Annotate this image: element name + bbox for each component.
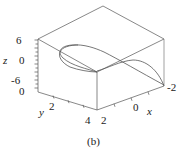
y-tick: [53, 96, 54, 99]
box-wireframe: [38, 6, 164, 110]
x-axis-tick-0: 0: [133, 102, 139, 113]
z-axis-tick-0: 0: [19, 55, 25, 66]
x-tick: [148, 92, 149, 95]
x-axis-name: x: [147, 106, 152, 117]
curve-right-branch: [97, 60, 164, 86]
y-axis-tick-2: 2: [49, 101, 55, 112]
x-tick: [131, 98, 132, 101]
box-edge-bottom-right: [97, 86, 164, 110]
y-tick: [68, 100, 69, 103]
figure-3d-surface-plot: z 6 0 -6 0 y 2 4 2 0 x -2 (b): [0, 0, 187, 161]
space-curve: [59, 45, 164, 86]
z-axis-tick-6: 6: [16, 35, 22, 46]
x-axis-tick-minus-2: -2: [167, 82, 176, 93]
z-axis-name: z: [3, 55, 7, 66]
figure-caption: (b): [0, 136, 187, 147]
y-tick: [83, 105, 84, 108]
x-axis-origin-tick-2: 2: [101, 115, 107, 126]
z-axis-origin-label: 0: [19, 86, 25, 97]
y-axis-tick-4: 4: [85, 115, 91, 126]
box-top-face: [38, 6, 164, 72]
box-edge-bottom-left: [38, 92, 97, 110]
curve-loop-lower: [59, 45, 97, 72]
x-tick: [114, 104, 115, 107]
y-axis-name: y: [39, 107, 44, 118]
